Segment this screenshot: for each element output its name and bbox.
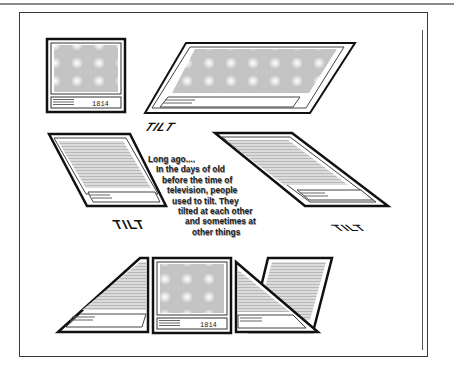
story-line: In the days of old bbox=[156, 164, 298, 174]
story-text: Long ago.... In the days of old before t… bbox=[148, 154, 298, 237]
story-line: Long ago.... bbox=[148, 154, 298, 164]
tv-skewed-top bbox=[145, 43, 355, 113]
story-line: television, people bbox=[167, 185, 298, 195]
story-line: before the time of bbox=[162, 175, 298, 185]
channel-label: 1814 bbox=[92, 100, 109, 108]
tilt-label-left: TILT bbox=[111, 217, 148, 232]
tv-upright-top: 1814 bbox=[47, 39, 125, 112]
tv-upright-bottom: 1814 bbox=[153, 258, 231, 333]
story-line: used to tilt. They bbox=[172, 196, 298, 206]
tv-triangle-left bbox=[58, 258, 148, 332]
story-line: and sometimes at bbox=[185, 216, 298, 226]
story-line: tilted at each other bbox=[178, 206, 298, 216]
story-line: other things bbox=[192, 227, 298, 237]
tv-overlap-right bbox=[236, 258, 332, 332]
svg-text:1814: 1814 bbox=[200, 321, 217, 329]
